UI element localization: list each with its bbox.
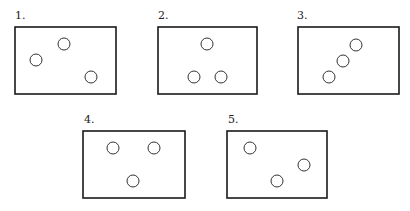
circle-icon [85, 71, 97, 83]
circle-icon [30, 54, 42, 66]
panel-frame [227, 131, 327, 198]
panel-2: 2. [158, 9, 257, 94]
circle-icon [107, 142, 119, 154]
circle-icon [244, 142, 256, 154]
panel-label: 1. [15, 9, 26, 22]
panel-label: 4. [84, 113, 95, 126]
circle-icon [323, 71, 335, 83]
panel-1: 1. [15, 9, 116, 94]
panel-4: 4. [83, 113, 185, 198]
circle-icon [215, 71, 227, 83]
dot-arrangement-diagram: 1.2.3.4.5. [0, 0, 410, 211]
circle-icon [148, 142, 160, 154]
circle-icon [337, 55, 349, 67]
circle-icon [188, 71, 200, 83]
panel-label: 5. [228, 113, 239, 126]
circle-icon [127, 175, 139, 187]
panel-3: 3. [297, 9, 399, 94]
circle-icon [201, 38, 213, 50]
circle-icon [350, 39, 362, 51]
panel-5: 5. [227, 113, 327, 198]
panel-frame [83, 131, 185, 198]
circle-icon [271, 175, 283, 187]
circle-icon [58, 38, 70, 50]
panel-frame [158, 27, 257, 94]
panel-label: 3. [297, 9, 308, 22]
circle-icon [298, 159, 310, 171]
panel-label: 2. [158, 9, 169, 22]
